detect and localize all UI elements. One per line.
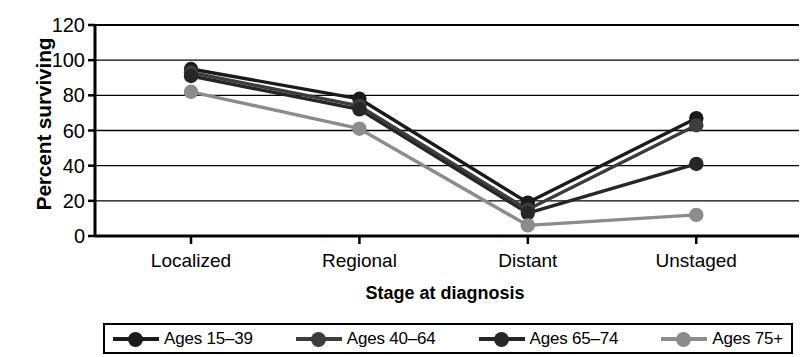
series-marker — [689, 118, 703, 132]
y-tick-label: 80 — [63, 84, 85, 106]
legend-marker-icon-series-2 — [296, 331, 342, 347]
series-line — [191, 76, 696, 213]
survival-by-stage-figure: 020406080100120 LocalizedRegionalDistant… — [0, 0, 800, 357]
y-tick-label: 40 — [63, 155, 85, 177]
x-tick-labels-group: LocalizedRegionalDistantUnstaged — [151, 250, 737, 271]
y-tick-label: 120 — [52, 14, 85, 36]
legend-item-ages-75-plus: Ages 75+ — [661, 329, 783, 349]
series-marker — [184, 85, 198, 99]
legend-label-series-4: Ages 75+ — [712, 329, 783, 349]
line-chart-svg: 020406080100120 LocalizedRegionalDistant… — [0, 0, 800, 312]
legend-item-ages-40-64: Ages 40–64 — [296, 329, 436, 349]
series-lines-group — [191, 69, 696, 225]
series-marker — [352, 102, 366, 116]
series-marker — [184, 69, 198, 83]
chart-plot-area: 020406080100120 LocalizedRegionalDistant… — [0, 0, 800, 312]
x-tick-label: Distant — [498, 250, 558, 271]
y-tick-label: 60 — [63, 120, 85, 142]
legend-label-series-1: Ages 15–39 — [164, 329, 253, 349]
series-line — [191, 73, 696, 210]
chart-legend: Ages 15–39 Ages 40–64 Ages 65–74 Ages 75… — [103, 323, 793, 354]
legend-label-series-3: Ages 65–74 — [530, 329, 619, 349]
x-tick-label: Localized — [151, 250, 231, 271]
series-marker — [521, 206, 535, 220]
series-marker — [352, 122, 366, 136]
legend-marker-icon-series-1 — [113, 331, 159, 347]
legend-marker-icon-series-3 — [479, 331, 525, 347]
y-tick-label: 20 — [63, 190, 85, 212]
y-tick-label: 0 — [74, 225, 85, 247]
series-marker — [689, 208, 703, 222]
legend-item-ages-15-39: Ages 15–39 — [113, 329, 253, 349]
legend-marker-icon-series-4 — [661, 331, 707, 347]
series-marker — [689, 157, 703, 171]
y-tick-labels-group: 020406080100120 — [52, 14, 85, 247]
x-tick-label: Unstaged — [656, 250, 737, 271]
y-axis-title: Percent surviving — [32, 34, 56, 214]
legend-label-series-2: Ages 40–64 — [347, 329, 436, 349]
x-axis-title: Stage at diagnosis — [95, 283, 795, 304]
series-marker — [521, 218, 535, 232]
y-tick-label: 100 — [52, 49, 85, 71]
x-tick-label: Regional — [322, 250, 397, 271]
legend-item-ages-65-74: Ages 65–74 — [479, 329, 619, 349]
